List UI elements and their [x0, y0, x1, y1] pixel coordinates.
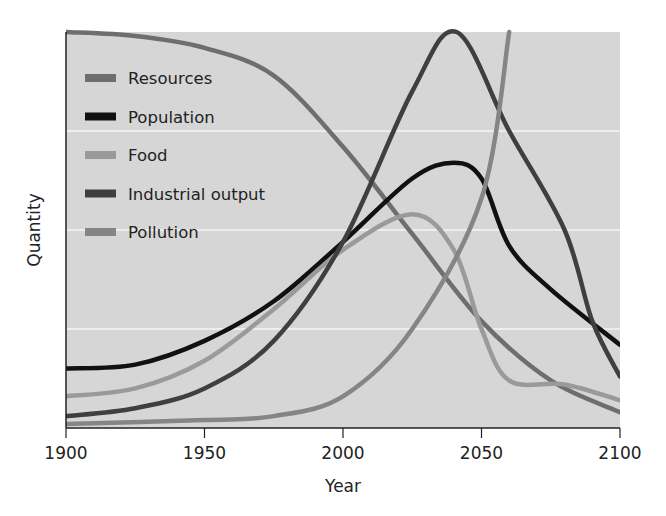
x-tick-label: 2100	[598, 443, 641, 463]
legend-swatch	[85, 228, 116, 236]
y-axis-title: Quantity	[24, 193, 44, 266]
legend-label: Population	[128, 108, 215, 127]
chart: 19001950200020502100 Year Quantity Resou…	[0, 0, 666, 516]
x-tick-label: 1900	[44, 443, 87, 463]
legend-label: Industrial output	[128, 185, 266, 204]
x-tick-label: 1950	[183, 443, 226, 463]
x-tick-label: 2000	[321, 443, 364, 463]
legend-label: Resources	[128, 69, 212, 88]
x-tick-label: 2050	[460, 443, 503, 463]
legend-swatch	[85, 190, 116, 198]
legend-swatch	[85, 113, 116, 121]
x-ticks: 19001950200020502100	[44, 428, 641, 463]
legend-swatch	[85, 151, 116, 159]
x-axis-title: Year	[324, 476, 361, 496]
legend-label: Food	[128, 146, 168, 165]
legend-swatch	[85, 74, 116, 82]
legend-label: Pollution	[128, 223, 199, 242]
